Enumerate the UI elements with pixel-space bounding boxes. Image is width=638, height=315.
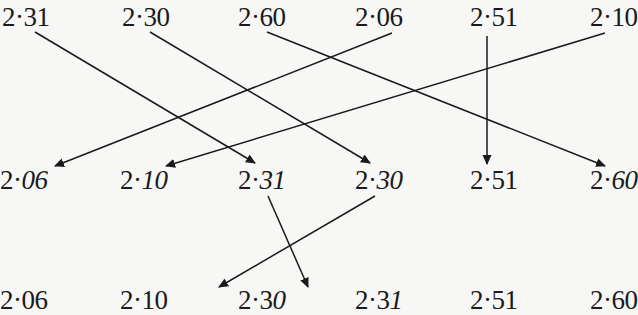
number-integer-part: 2·: [238, 2, 260, 32]
number-italic-digits: 30: [377, 165, 403, 195]
arrow-line: [166, 33, 605, 166]
arrow-line: [35, 32, 255, 163]
number-upright-digits: 06: [22, 285, 48, 315]
number-upright-digits: 3: [377, 285, 390, 315]
number-label: 2·51: [470, 165, 518, 195]
number-label: 2·10: [120, 285, 168, 315]
number-label: 2·06: [0, 165, 48, 195]
number-upright-digits: 51: [492, 165, 518, 195]
number-integer-part: 2·: [0, 285, 22, 315]
number-label: 2·30: [122, 2, 170, 32]
number-upright-digits: 3: [260, 285, 273, 315]
number-upright-digits: 10: [612, 2, 638, 32]
number-upright-digits: 30: [144, 2, 170, 32]
number-label: 2·60: [238, 2, 286, 32]
arrow-line: [267, 32, 605, 166]
number-upright-digits: 60: [260, 2, 286, 32]
number-upright-digits: 51: [492, 2, 518, 32]
number-upright-digits: 60: [612, 285, 638, 315]
number-integer-part: 2·: [355, 2, 377, 32]
number-integer-part: 2·: [0, 165, 22, 195]
number-upright-digits: 10: [142, 285, 168, 315]
number-integer-part: 2·: [355, 285, 377, 315]
number-label: 2·30: [238, 285, 286, 315]
number-integer-part: 2·: [120, 165, 142, 195]
number-integer-part: 2·: [238, 285, 260, 315]
arrow-line: [268, 196, 308, 287]
number-label: 2·51: [470, 285, 518, 315]
number-integer-part: 2·: [590, 165, 612, 195]
number-label: 2·10: [590, 2, 638, 32]
number-integer-part: 2·: [2, 2, 24, 32]
arrow-line: [219, 196, 375, 287]
number-italic-digits: 10: [142, 165, 168, 195]
number-italic-digits: 0: [273, 285, 286, 315]
number-label: 2·60: [590, 285, 638, 315]
number-italic-digits: 31: [260, 165, 286, 195]
number-upright-digits: 31: [24, 2, 50, 32]
number-italic-digits: 60: [612, 165, 638, 195]
number-italic-digits: 06: [22, 165, 48, 195]
arrow-line: [150, 32, 370, 163]
number-integer-part: 2·: [120, 285, 142, 315]
number-integer-part: 2·: [590, 285, 612, 315]
number-upright-digits: 06: [377, 2, 403, 32]
number-label: 2·10: [120, 165, 168, 195]
number-label: 2·06: [355, 2, 403, 32]
number-label: 2·30: [355, 165, 403, 195]
number-integer-part: 2·: [122, 2, 144, 32]
number-label: 2·31: [238, 165, 286, 195]
number-integer-part: 2·: [590, 2, 612, 32]
number-integer-part: 2·: [470, 2, 492, 32]
number-label: 2·51: [470, 2, 518, 32]
number-label: 2·31: [355, 285, 403, 315]
number-integer-part: 2·: [238, 165, 260, 195]
number-label: 2·06: [0, 285, 48, 315]
number-integer-part: 2·: [470, 285, 492, 315]
number-label: 2·60: [590, 165, 638, 195]
number-italic-digits: 1: [390, 285, 403, 315]
number-upright-digits: 51: [492, 285, 518, 315]
number-integer-part: 2·: [355, 165, 377, 195]
number-label: 2·31: [2, 2, 50, 32]
number-integer-part: 2·: [470, 165, 492, 195]
